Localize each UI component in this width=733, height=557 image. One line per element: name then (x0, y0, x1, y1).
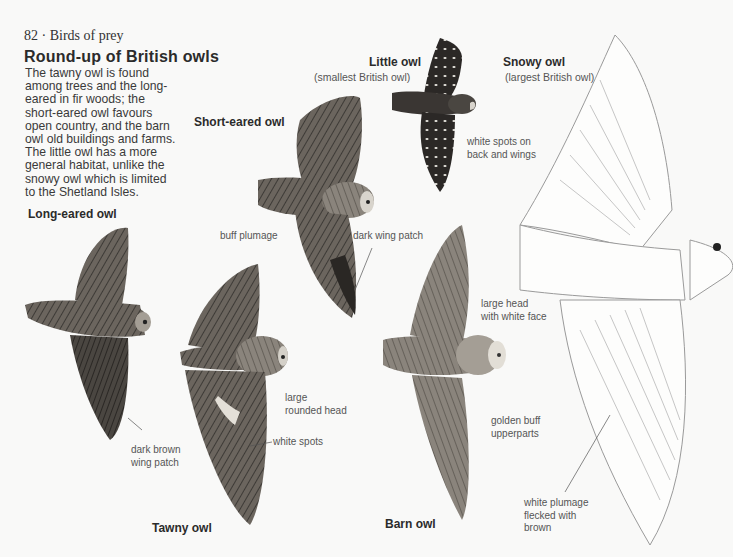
little-owl-label: Little owl (369, 55, 421, 69)
intro-paragraph: The tawny owl is found among trees and t… (25, 67, 190, 199)
tawny-owl-head-note: large rounded head (285, 392, 347, 417)
short-eared-owl-label: Short-eared owl (194, 115, 285, 129)
short-eared-plumage-note: buff plumage (220, 230, 278, 243)
intro-line: snowy owl which is limited (25, 173, 190, 186)
intro-line: short-eared owl favours (25, 107, 190, 120)
page-title: Round-up of British owls (24, 48, 219, 66)
long-eared-owl-illustration (25, 228, 151, 440)
snowy-owl-note: white plumage flecked with brown (524, 497, 588, 535)
running-head: 82 · Birds of prey (24, 28, 124, 44)
tawny-owl-spots-note: white spots (273, 436, 323, 449)
intro-line: general habitat, unlike the (25, 159, 190, 172)
little-owl-note: white spots on back and wings (467, 136, 536, 161)
barn-owl-upperparts-note: golden buff upperparts (491, 415, 540, 440)
barn-owl-label: Barn owl (385, 517, 436, 531)
barn-owl-head-note: large head with white face (481, 298, 547, 323)
snowy-owl-illustration (520, 35, 733, 545)
intro-line: eared in fir woods; the (25, 93, 190, 106)
book-page: 82 · Birds of prey Round-up of British o… (0, 0, 733, 557)
short-eared-owl-illustration (258, 96, 374, 318)
tawny-owl-label: Tawny owl (152, 521, 212, 535)
long-eared-owl-note: dark brown wing patch (131, 444, 180, 469)
short-eared-wing-note: dark wing patch (353, 230, 423, 243)
long-eared-owl-label: Long-eared owl (28, 207, 117, 221)
snowy-owl-label: Snowy owl (503, 55, 565, 69)
tawny-owl-illustration (180, 264, 288, 525)
barn-owl-illustration (383, 225, 506, 520)
snowy-owl-subtitle: (largest British owl) (505, 71, 594, 83)
little-owl-subtitle: (smallest British owl) (314, 71, 410, 83)
intro-line: to the Shetland Isles. (25, 186, 190, 199)
